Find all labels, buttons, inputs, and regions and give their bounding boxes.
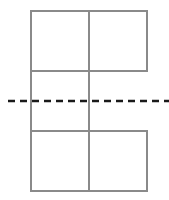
diagram-canvas — [0, 0, 169, 200]
top-left-square — [31, 11, 89, 71]
bottom-right-square — [89, 131, 147, 191]
bottom-left-square — [31, 131, 89, 191]
top-right-square — [89, 11, 147, 71]
top-squares — [31, 11, 147, 71]
bottom-squares — [31, 131, 147, 191]
